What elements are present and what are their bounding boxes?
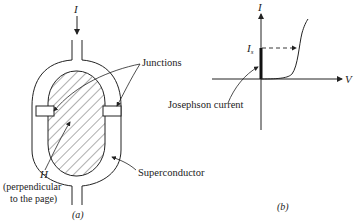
figure-b-graph bbox=[212, 14, 342, 130]
field-note-line2: to the page) bbox=[10, 193, 57, 205]
current-label: I bbox=[73, 3, 79, 15]
caption-b: (b) bbox=[277, 201, 289, 213]
field-note-line1: (perpendicular bbox=[3, 181, 62, 193]
junction-leader-right bbox=[117, 64, 140, 106]
junctions-label: Junctions bbox=[142, 57, 182, 68]
caption-a: (a) bbox=[72, 209, 84, 221]
field-label: H bbox=[39, 168, 49, 180]
josephson-current-label: Josephson current bbox=[168, 99, 244, 110]
iv-curve bbox=[261, 19, 308, 79]
superconductor-region bbox=[48, 71, 105, 176]
junction-right bbox=[103, 106, 121, 116]
figure-a-diagram bbox=[32, 16, 140, 205]
y-axis-label: I bbox=[257, 1, 263, 13]
critical-current-label: Is bbox=[246, 42, 254, 56]
figure-canvas: I Junctions H (perpendicular to the page… bbox=[0, 0, 360, 222]
josephson-leader bbox=[228, 67, 258, 103]
superconductor-label: Superconductor bbox=[138, 167, 205, 178]
x-axis-label: V bbox=[345, 73, 353, 85]
junction-left bbox=[36, 106, 54, 116]
